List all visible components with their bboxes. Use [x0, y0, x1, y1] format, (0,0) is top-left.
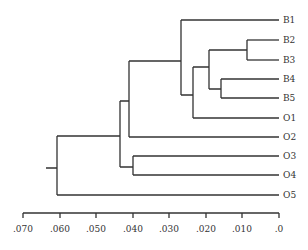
node-root — [46, 136, 57, 195]
leaf-label-b2: B2 — [283, 35, 295, 45]
node-b1-o2 — [120, 61, 129, 137]
tick-label: .020 — [196, 224, 216, 234]
tick-label: .050 — [86, 224, 106, 234]
leaf-label-o5: O5 — [283, 190, 296, 200]
node-b2-b3 — [209, 40, 247, 60]
node-o3-o4 — [120, 156, 133, 175]
node-b2-o1 — [181, 67, 193, 118]
leaf-label-b3: B3 — [283, 55, 295, 65]
dendrogram — [0, 0, 308, 250]
tick-label: .030 — [159, 224, 179, 234]
node-b1-o1 — [129, 20, 181, 95]
tick-label: .0 — [275, 224, 284, 234]
tick-label: .010 — [232, 224, 252, 234]
x-axis-ticks — [23, 213, 279, 218]
tick-label: .070 — [13, 224, 33, 234]
leaf-label-o4: O4 — [283, 170, 296, 180]
leaf-label-b1: B1 — [283, 15, 295, 25]
node-b1-o4 — [57, 101, 120, 167]
leaf-label-o3: O3 — [283, 151, 296, 161]
tick-label: .040 — [123, 224, 143, 234]
leaf-label-b4: B4 — [283, 74, 295, 84]
leaf-label-o1: O1 — [283, 113, 296, 123]
node-b4-b5 — [209, 79, 221, 98]
node-b2-b5 — [193, 50, 209, 89]
leaf-label-b5: B5 — [283, 93, 295, 103]
leaf-label-o2: O2 — [283, 132, 296, 142]
tick-label: .060 — [50, 224, 70, 234]
